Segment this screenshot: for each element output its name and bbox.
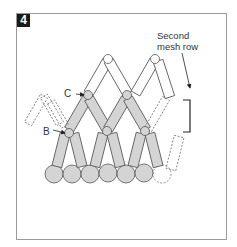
beadwork-diagram <box>0 0 237 247</box>
c-pointer-arrow <box>76 94 84 95</box>
b-pointer-arrow <box>53 130 65 133</box>
caption-arrow <box>182 53 190 88</box>
dashed-bugle-right <box>166 135 184 170</box>
dashed-base-bead <box>153 165 171 183</box>
second-row-bracket <box>183 100 190 132</box>
